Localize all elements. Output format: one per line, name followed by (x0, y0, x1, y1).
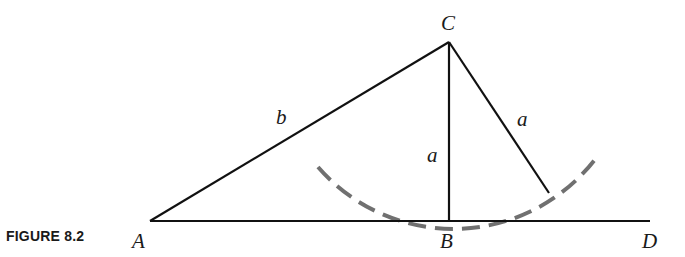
vertex-label-A: A (130, 229, 145, 253)
side-label-a-slanted: a (517, 107, 528, 131)
geometry-figure: A B C D b a a (0, 0, 685, 257)
side-label-b: b (276, 105, 287, 129)
figure-caption: FIGURE 8.2 (6, 228, 84, 244)
vertex-label-D: D (641, 229, 657, 253)
vertex-label-B: B (440, 229, 453, 253)
line-AC (150, 42, 449, 221)
line-CE (449, 42, 549, 193)
dashed-arc (318, 154, 599, 229)
side-label-a-vertical: a (427, 143, 438, 167)
vertex-label-C: C (441, 11, 456, 35)
